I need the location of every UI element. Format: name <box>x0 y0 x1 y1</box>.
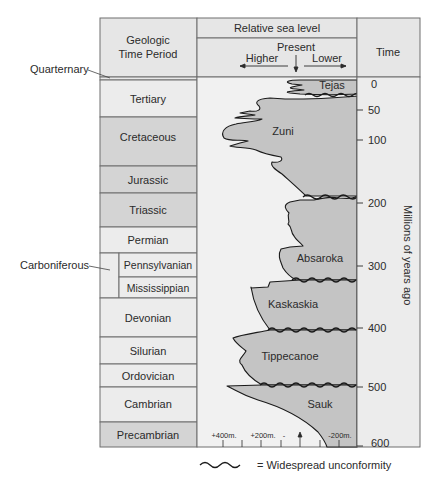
period-label: Pennsylvanian <box>124 259 192 271</box>
time-header-label: Time <box>376 46 400 58</box>
period-label: Cretaceous <box>120 131 177 143</box>
sea-level-tick-label: -200m. <box>328 431 351 440</box>
period-label: Silurian <box>130 345 167 357</box>
period-label: Mississippian <box>127 282 190 294</box>
higher-label: Higher <box>246 52 279 64</box>
time-tick-label: 600 <box>371 437 389 449</box>
unconformity-legend-icon <box>200 463 240 468</box>
time-tick-label: 400 <box>368 322 386 334</box>
period-label: Permian <box>128 234 169 246</box>
present-label: Present <box>277 41 315 53</box>
sequence-label-sauk: Sauk <box>307 398 333 410</box>
time-tick-label: 50 <box>368 104 380 116</box>
time-tick-label: 200 <box>368 197 386 209</box>
sequence-label-tippecanoe: Tippecanoe <box>261 350 318 362</box>
sea-level-title: Relative sea level <box>234 22 320 34</box>
time-axis-label: Millions of years ago <box>402 205 414 305</box>
period-label: Ordovician <box>122 370 175 382</box>
period-label: Precambrian <box>117 429 179 441</box>
period-label: Tertiary <box>130 93 167 105</box>
sea-level-tick-label: +200m. <box>250 431 275 440</box>
sequence-label-absaroka: Absaroka <box>297 252 344 264</box>
header-period-line2: Time Period <box>119 48 178 60</box>
time-tick-label: 300 <box>368 260 386 272</box>
sequence-label-kaskaskia: Kaskaskia <box>268 298 319 310</box>
quaternary-label: Quarternary <box>30 63 89 75</box>
period-label: Cambrian <box>124 398 172 410</box>
time-tick-label: 0 <box>371 78 377 90</box>
header-period-line1: Geologic <box>126 34 170 46</box>
period-label: Triassic <box>129 204 167 216</box>
time-tick-label: 100 <box>368 134 386 146</box>
carboniferous-label: Carboniferous <box>20 259 90 271</box>
period-label: Devonian <box>125 312 171 324</box>
time-tick-label: 500 <box>368 381 386 393</box>
sequence-label-zuni: Zuni <box>272 125 293 137</box>
period-cell-carboniferous <box>100 253 119 298</box>
period-label: Jurassic <box>128 174 169 186</box>
lower-label: Lower <box>312 52 342 64</box>
sequence-label-tejas: Tejas <box>319 79 345 91</box>
sloss-sequence-diagram: Geologic Time Period Relative sea level … <box>0 0 439 482</box>
sea-level-tick-label: +400m. <box>211 431 236 440</box>
legend-text: = Widespread unconformity <box>257 459 392 471</box>
